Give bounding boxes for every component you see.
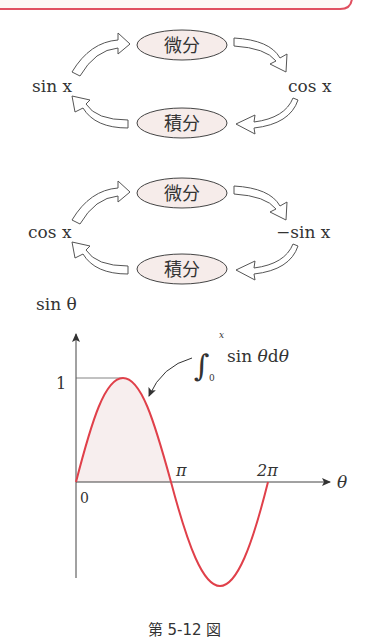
- tick-1-label: 1: [56, 374, 66, 393]
- cycle1-right-term: cos x: [288, 76, 332, 96]
- tick-pi-label: π: [175, 461, 187, 480]
- tick-2pi-label: 2π: [256, 461, 278, 480]
- integral-label-2: 積分: [164, 259, 200, 280]
- cycle2-left-term: cos x: [28, 222, 72, 242]
- y-axis-label: sin θ: [36, 294, 77, 314]
- sine-graph: sin θ θ 0 1 π 2π ∫ x 0 sin θdθ: [36, 294, 347, 586]
- arrow-diff-to-cos: [234, 38, 287, 72]
- diagram-canvas: 微分 積分 sin x cos x 微分 積分 cos x −sin x s: [0, 0, 369, 644]
- cycle2-right-term: −sin x: [276, 222, 331, 242]
- derivative-label-2: 微分: [164, 183, 200, 204]
- figure-caption: 第 5-12 図: [0, 618, 369, 639]
- integral-upper-limit: x: [219, 330, 224, 340]
- integral-integrand: sin θdθ: [227, 346, 289, 366]
- integral-lower-limit: 0: [209, 373, 215, 383]
- arrow-sin-to-diff: [72, 33, 130, 76]
- cycle1-left-term: sin x: [32, 76, 73, 96]
- arrow-int-to-cos: [72, 242, 128, 274]
- x-axis-label: θ: [337, 472, 347, 492]
- arrow-cos-to-int: [236, 98, 298, 134]
- arrow-int-to-sin: [72, 96, 128, 128]
- top-frame-fill: [0, 0, 340, 8]
- arrow-cos-to-diff: [72, 181, 130, 224]
- arrow-negsin-to-int: [236, 244, 298, 280]
- derivative-label-1: 微分: [164, 35, 200, 56]
- annotation-pointer-arrow: [149, 358, 192, 396]
- arrow-diff-to-negsin: [234, 186, 287, 220]
- origin-label: 0: [80, 490, 89, 506]
- integral-sign: ∫: [194, 348, 210, 383]
- cycle-2: 微分 積分 cos x −sin x: [28, 178, 331, 284]
- integral-label-1: 積分: [164, 113, 200, 134]
- cycle-1: 微分 積分 sin x cos x: [32, 30, 332, 138]
